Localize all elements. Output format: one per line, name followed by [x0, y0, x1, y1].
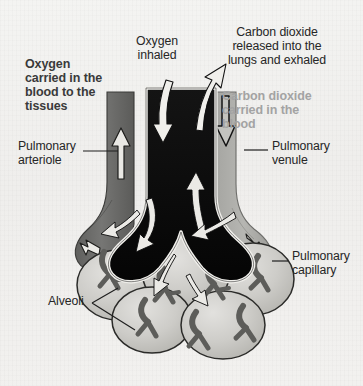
label-carbon-dioxide-carried: Carbon dioxide carried in the blood [222, 89, 342, 131]
label-pulmonary-venule: Pulmonary venule [272, 140, 352, 168]
label-alveoli: Alveoli [48, 295, 108, 309]
alveoli-cluster [77, 235, 294, 359]
label-oxygen-inhaled: Oxygen inhaled [118, 35, 196, 63]
alveolus [112, 287, 192, 353]
label-carbon-dioxide-released: Carbon dioxide released into the lungs a… [207, 26, 347, 67]
label-pulmonary-arteriole: Pulmonary arteriole [18, 140, 90, 168]
gas-exchange-diagram: Oxygen carried in the blood to the tissu… [0, 0, 363, 386]
label-pulmonary-capillary: Pulmonary capillary [292, 250, 362, 278]
label-oxygen-carried: Oxygen carried in the blood to the tissu… [25, 57, 133, 113]
